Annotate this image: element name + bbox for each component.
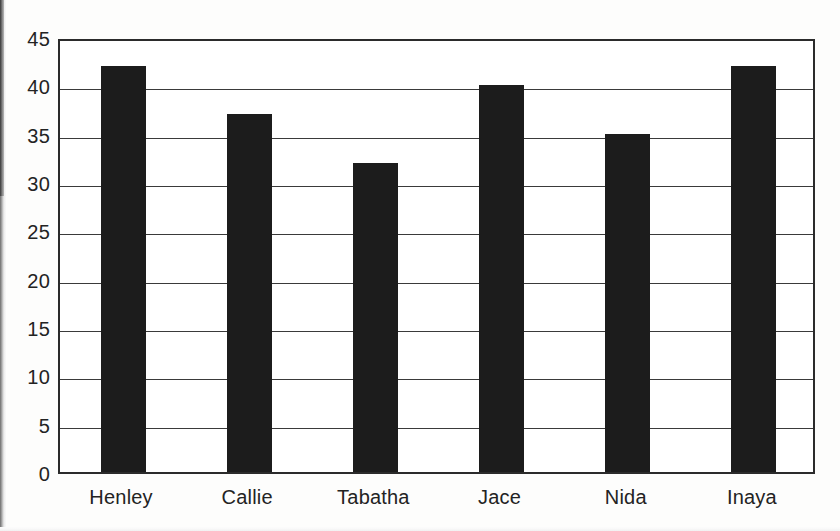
x-tick-label: Jace: [437, 487, 563, 507]
bar: [227, 114, 272, 472]
y-tick-label: 10: [2, 367, 50, 387]
x-tick-label: Nida: [563, 487, 689, 507]
x-tick-label: Inaya: [689, 487, 815, 507]
bar-series: [60, 41, 813, 472]
bar: [731, 66, 776, 472]
y-tick-label: 20: [2, 271, 50, 291]
y-tick-label: 5: [2, 416, 50, 436]
x-tick-label: Callie: [184, 487, 310, 507]
x-tick-label: Tabatha: [310, 487, 436, 507]
y-tick-label: 40: [2, 77, 50, 97]
bar: [479, 85, 524, 472]
y-axis-tick-labels: 051015202530354045: [0, 0, 50, 531]
y-tick-label: 0: [2, 464, 50, 484]
bar: [101, 66, 146, 472]
chart-page: 051015202530354045 HenleyCallieTabathaJa…: [0, 0, 840, 531]
bar: [353, 163, 398, 472]
plot-area: [58, 39, 815, 474]
y-tick-label: 15: [2, 319, 50, 339]
x-tick-label: Henley: [58, 487, 184, 507]
scan-edge-artifact-bottom: [0, 527, 840, 531]
y-tick-label: 30: [2, 174, 50, 194]
y-tick-label: 25: [2, 222, 50, 242]
y-tick-label: 45: [2, 29, 50, 49]
x-axis-tick-labels: HenleyCallieTabathaJaceNidaInaya: [58, 487, 815, 519]
y-tick-label: 35: [2, 126, 50, 146]
bar: [605, 134, 650, 472]
